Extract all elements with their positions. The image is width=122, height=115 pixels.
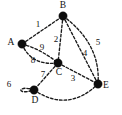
edge-weight-c-e: 3: [71, 73, 76, 83]
node-b[interactable]: [59, 12, 67, 20]
edge-weight-a-c-lower: 8: [31, 55, 36, 65]
node-label-e: E: [103, 80, 109, 90]
edge-weight-c-d: 7: [41, 69, 46, 79]
edge-weight-b-e-outer: 5: [96, 37, 101, 47]
edge-weight-b-c: 2: [54, 34, 59, 44]
node-a[interactable]: [18, 40, 26, 48]
edge-weight-a-b: 1: [36, 19, 41, 29]
node-d[interactable]: [30, 86, 38, 94]
graph-canvas: A B C D E 1 2 9 8 4 5 3 7 6: [0, 0, 122, 115]
graph-diagram: A B C D E 1 2 9 8 4 5 3 7 6: [0, 0, 122, 115]
edge-b-e-inner: [63, 16, 98, 84]
node-c[interactable]: [54, 59, 62, 67]
node-label-a: A: [8, 37, 15, 47]
node-label-b: B: [60, 0, 66, 10]
edge-weight-a-c-upper: 9: [40, 42, 45, 52]
node-e[interactable]: [94, 80, 102, 88]
node-label-c: C: [56, 67, 62, 77]
edge-c-d: [34, 63, 58, 90]
edge-weight-d-self: 6: [7, 79, 12, 89]
edge-d-e: [34, 84, 98, 100]
node-label-d: D: [32, 95, 39, 105]
edge-b-c: [58, 16, 63, 63]
node-layer: [18, 12, 102, 94]
edge-weight-b-e-inner: 4: [83, 48, 88, 58]
